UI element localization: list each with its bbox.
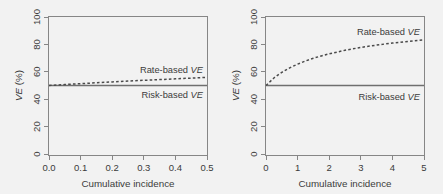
figure-container: 100 80 60 40 20 0 VE (%) 0.0 0.1 [0,0,443,194]
x-tick-label: 0.3 [137,162,150,173]
y-tick-label: 20 [248,121,259,132]
y-tick-label: 60 [31,67,42,78]
y-tick-label: 80 [31,39,42,50]
y-axis-ticks-left [44,17,49,154]
x-tick-label: 3 [358,162,363,173]
annotation-risk-prefix: Risk-based [142,90,191,100]
series-rate-based-ve-right [266,40,424,86]
annotation-rate-based-ve-right: Rate-based VE [357,27,421,37]
x-tick-label: 0 [263,162,268,173]
annotation-rate-prefix: Rate-based [357,27,408,37]
annotation-rate-ve: VE [408,27,421,37]
x-tick-label: 4 [390,162,395,173]
y-tick-label: 40 [248,94,259,105]
y-axis-tick-labels-right: 100 80 60 40 20 0 [248,9,259,157]
annotation-risk-ve: VE [191,90,204,100]
annotation-rate-prefix: Rate-based [140,65,191,75]
x-tick-label: 0.0 [42,162,55,173]
y-axis-title-ve: VE [230,87,241,101]
y-axis-title-left: VE (%) [13,70,24,101]
y-axis-title-unit: (%) [230,70,241,88]
y-axis-tick-labels-left: 100 80 60 40 20 0 [31,9,42,157]
annotation-risk-prefix: Risk-based [359,92,408,102]
x-tick-label: 0.1 [74,162,87,173]
x-tick-label: 0.2 [106,162,119,173]
y-axis-ticks-right [261,17,266,154]
y-tick-label: 0 [248,151,259,156]
x-tick-label: 5 [421,162,426,173]
x-tick-label: 2 [327,162,332,173]
x-axis-ticks-right [266,156,424,161]
y-tick-label: 100 [31,9,42,25]
x-tick-label: 1 [295,162,300,173]
x-axis-ticks-left [49,156,207,161]
annotation-rate-ve: VE [191,65,204,75]
y-tick-label: 40 [31,94,42,105]
plot-right-svg: 100 80 60 40 20 0 VE (%) 0 1 [222,0,443,194]
x-axis-tick-labels-right: 0 1 2 3 4 5 [263,162,426,173]
y-tick-label: 100 [248,9,259,25]
chart-panel-left: 100 80 60 40 20 0 VE (%) 0.0 0.1 [0,0,222,194]
y-tick-label: 0 [31,151,42,156]
x-axis-tick-labels-left: 0.0 0.1 0.2 0.3 0.4 0.5 [42,162,213,173]
y-tick-label: 20 [31,121,42,132]
x-tick-label: 0.5 [200,162,213,173]
y-axis-title-unit: (%) [13,70,24,88]
y-axis-title-right: VE (%) [230,70,241,101]
y-tick-label: 80 [248,39,259,50]
chart-panel-right: 100 80 60 40 20 0 VE (%) 0 1 [222,0,443,194]
x-tick-label: 0.4 [169,162,182,173]
y-axis-title-ve: VE [13,87,24,101]
annotation-risk-based-ve-left: Risk-based VE [142,90,204,100]
series-rate-based-ve-left [49,77,207,85]
annotation-risk-ve: VE [408,92,421,102]
plot-left-svg: 100 80 60 40 20 0 VE (%) 0.0 0.1 [0,0,222,194]
x-axis-title-right: Cumulative incidence [298,178,392,189]
x-axis-title-left: Cumulative incidence [81,178,175,189]
y-tick-label: 60 [248,67,259,78]
annotation-risk-based-ve-right: Risk-based VE [359,92,421,102]
annotation-rate-based-ve-left: Rate-based VE [140,65,204,75]
